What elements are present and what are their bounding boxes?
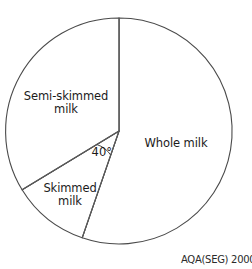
slice-label-semi-skimmed-milk: Semi-skimmed milk bbox=[14, 90, 118, 115]
slice-label-skimmed-milk: Skimmed milk bbox=[27, 182, 113, 207]
pie-chart-figure: Whole milk Semi-skimmed milk Skimmed mil… bbox=[0, 0, 252, 269]
slice-label-semi-skimmed-milk-line1: Semi-skimmed bbox=[14, 90, 118, 103]
pie-chart-svg bbox=[0, 0, 252, 269]
slice-label-semi-skimmed-milk-line2: milk bbox=[14, 103, 118, 116]
slice-label-skimmed-milk-line1: Skimmed bbox=[27, 182, 113, 195]
angle-label-40-degrees: 40° bbox=[78, 146, 112, 159]
exam-board-attribution: AQA(SEG) 2000 bbox=[181, 254, 252, 266]
slice-label-whole-milk-text: Whole milk bbox=[145, 136, 208, 150]
slice-label-whole-milk: Whole milk bbox=[133, 137, 219, 150]
slice-label-skimmed-milk-line2: milk bbox=[27, 195, 113, 208]
